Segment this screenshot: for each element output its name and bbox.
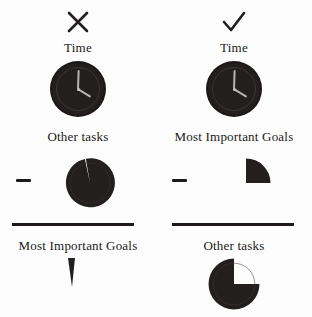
result-label-right: Other tasks bbox=[156, 238, 312, 254]
clock-center-pin bbox=[77, 88, 80, 91]
equation-divider-right bbox=[172, 223, 294, 226]
minus-sign bbox=[16, 179, 31, 182]
clock-icon bbox=[52, 63, 104, 115]
result-pie-slot-wrong bbox=[0, 258, 156, 314]
column-wrong-approach: Time Other tasks bbox=[0, 0, 156, 317]
time-allocation-figure: Time Other tasks bbox=[0, 0, 312, 317]
clock-wrap-right bbox=[156, 60, 312, 118]
pie-most-important-goals-quarter bbox=[221, 158, 271, 208]
clock-wrap-wrong bbox=[0, 60, 156, 118]
result-label-wrong: Most Important Goals bbox=[0, 238, 156, 254]
minus-sign bbox=[172, 179, 187, 182]
subtrahend-pie-slot-wrong bbox=[40, 155, 140, 211]
operation-row-wrong bbox=[0, 155, 156, 211]
pie-other-tasks-three-quarter bbox=[208, 258, 260, 310]
subtrahend-pie-slot-right bbox=[196, 155, 296, 211]
equation-divider-wrong bbox=[12, 223, 134, 226]
pie-other-tasks-large bbox=[65, 158, 115, 208]
clock-icon bbox=[208, 63, 260, 115]
x-mark-icon bbox=[0, 6, 156, 38]
subtrahend-label-right: Most Important Goals bbox=[156, 129, 312, 145]
subtrahend-label-wrong: Other tasks bbox=[0, 129, 156, 145]
time-label-wrong: Time bbox=[0, 40, 156, 56]
time-label-right: Time bbox=[156, 40, 312, 56]
clock-center-pin bbox=[233, 88, 236, 91]
result-pie-slot-right bbox=[156, 258, 312, 314]
operation-row-right bbox=[156, 155, 312, 211]
check-mark-icon bbox=[156, 6, 312, 38]
column-right-approach: Time Most Important Goals O bbox=[156, 0, 312, 317]
pie-most-important-goals-sliver bbox=[53, 258, 103, 304]
